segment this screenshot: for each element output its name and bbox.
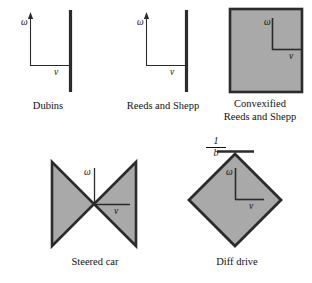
panel-label-steered-car: Steered car bbox=[38, 256, 152, 269]
control-set-figure: ω v Dubins ω v Reeds and Shepp ω v Conve… bbox=[0, 0, 312, 283]
omega-arrowhead bbox=[28, 12, 33, 19]
omega-axis-label: ω bbox=[226, 167, 233, 177]
panel-label-diff-drive: Diff drive bbox=[176, 256, 298, 269]
dubins-diagram bbox=[4, 4, 100, 96]
reeds-and-shepp-axes bbox=[146, 16, 186, 66]
panel-label-dubins: Dubins bbox=[0, 100, 96, 113]
panel-steered-car: ω v Steered car bbox=[38, 152, 152, 270]
omega-arrowhead bbox=[144, 12, 149, 19]
panel-reeds-and-shepp: ω v Reeds and Shepp bbox=[110, 4, 216, 114]
v-axis-label: v bbox=[114, 206, 118, 216]
omega-axis-label: ω bbox=[264, 17, 271, 27]
diff-drive-diagram bbox=[176, 136, 298, 256]
panel-label-reeds-and-shepp: Reeds and Shepp bbox=[110, 100, 216, 113]
omega-axis-label: ω bbox=[84, 167, 91, 177]
panel-diff-drive: 1 b ω v Diff drive bbox=[176, 136, 298, 270]
v-axis-label: v bbox=[170, 67, 174, 77]
v-axis-label: v bbox=[289, 51, 293, 61]
v-axis-label: v bbox=[54, 67, 58, 77]
fraction-denominator: b bbox=[206, 148, 226, 158]
omega-axis-label: ω bbox=[137, 17, 144, 27]
fraction-numerator: 1 bbox=[206, 136, 226, 146]
one-over-b-fraction-label: 1 b bbox=[206, 136, 226, 158]
dubins-axes bbox=[30, 16, 70, 66]
panel-convexified-reeds-and-shepp: ω v Convexified Reeds and Shepp bbox=[222, 4, 310, 128]
reeds-and-shepp-diagram bbox=[110, 4, 216, 96]
steered-car-diagram bbox=[38, 152, 152, 256]
v-axis-label: v bbox=[249, 201, 253, 211]
panel-label-convexified-reeds-and-shepp: Convexified Reeds and Shepp bbox=[216, 98, 304, 123]
panel-dubins: ω v Dubins bbox=[4, 4, 100, 114]
omega-axis-label: ω bbox=[21, 17, 28, 27]
